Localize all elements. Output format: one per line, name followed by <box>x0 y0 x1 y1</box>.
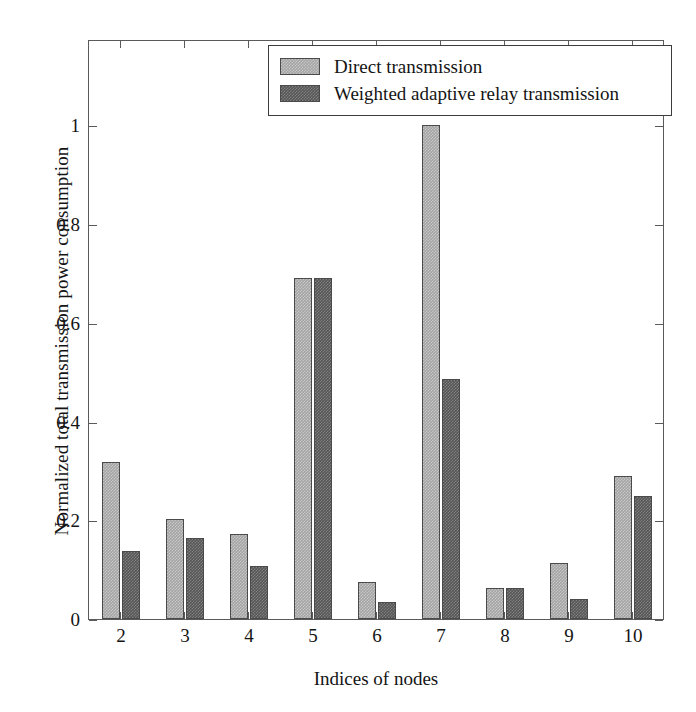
legend-swatch-weighted-adaptive-relay-transmission <box>280 85 320 102</box>
x-axis-tick-mirror <box>248 41 249 48</box>
y-axis-tick-mirror <box>655 521 663 522</box>
y-axis-tick-label: 1 <box>71 115 81 137</box>
x-axis-tick-label: 3 <box>160 625 210 647</box>
bar-4-series-1 <box>250 566 268 619</box>
bar-3-series-1 <box>186 538 204 619</box>
legend-item-weighted-adaptive-relay-transmission: Weighted adaptive relay transmission <box>280 80 659 107</box>
legend-label-direct-transmission: Direct transmission <box>334 56 482 78</box>
y-axis-tick: 0.4 <box>89 423 97 424</box>
y-axis-tick: 0.2 <box>89 521 97 522</box>
y-axis-tick-mirror <box>655 620 663 621</box>
legend-swatch-direct-transmission <box>280 58 320 75</box>
x-axis-tick-label: 10 <box>608 625 658 647</box>
y-axis-tick: 0.6 <box>89 324 97 325</box>
y-axis-tick-label: 0.6 <box>56 313 80 335</box>
bar-5-series-0 <box>294 278 312 619</box>
bar-9-series-1 <box>570 599 588 619</box>
bar-5-series-1 <box>314 278 332 619</box>
bar-3-series-0 <box>166 519 184 619</box>
x-axis-tick-label: 7 <box>416 625 466 647</box>
bar-10-series-1 <box>634 496 652 620</box>
y-axis-tick-label: 0 <box>71 609 81 631</box>
y-axis-tick-label: 0.8 <box>56 214 80 236</box>
legend-item-direct-transmission: Direct transmission <box>280 53 659 80</box>
legend: Direct transmission Weighted adaptive re… <box>268 45 672 116</box>
x-axis-tick-label: 8 <box>480 625 530 647</box>
y-axis-tick-mirror <box>655 225 663 226</box>
bar-2-series-1 <box>122 551 140 619</box>
bar-7-series-1 <box>442 379 460 619</box>
x-axis-tick-label: 6 <box>352 625 402 647</box>
bar-2-series-0 <box>102 462 120 619</box>
x-axis-tick-mirror <box>184 41 185 48</box>
y-axis-tick-mirror <box>655 423 663 424</box>
x-axis-tick-label: 4 <box>224 625 274 647</box>
bar-6-series-0 <box>358 582 376 619</box>
y-axis-tick: 0 <box>89 620 97 621</box>
x-axis-tick-label: 9 <box>544 625 594 647</box>
x-axis-tick-label: 5 <box>288 625 338 647</box>
x-axis-tick-label: 2 <box>96 625 146 647</box>
y-axis-tick-label: 0.4 <box>56 412 80 434</box>
bar-9-series-0 <box>550 563 568 619</box>
plot-area: 00.20.40.60.812345678910 <box>88 40 664 620</box>
y-axis-tick-mirror <box>655 126 663 127</box>
bar-4-series-0 <box>230 534 248 619</box>
y-axis-tick: 1 <box>89 126 97 127</box>
legend-label-weighted-adaptive-relay-transmission: Weighted adaptive relay transmission <box>334 83 619 105</box>
bar-8-series-0 <box>486 588 504 619</box>
bar-7-series-0 <box>422 125 440 619</box>
x-axis-title: Indices of nodes <box>88 668 664 690</box>
y-axis-tick: 0.8 <box>89 225 97 226</box>
y-axis-tick-label: 0.2 <box>56 510 80 532</box>
figure: Normalized total transmission power cons… <box>0 0 696 712</box>
bar-10-series-0 <box>614 476 632 619</box>
y-axis-title: Normalized total transmission power cons… <box>51 61 73 621</box>
y-axis-tick-mirror <box>655 324 663 325</box>
bar-8-series-1 <box>506 588 524 619</box>
x-axis-tick-mirror <box>120 41 121 48</box>
bar-6-series-1 <box>378 602 396 619</box>
